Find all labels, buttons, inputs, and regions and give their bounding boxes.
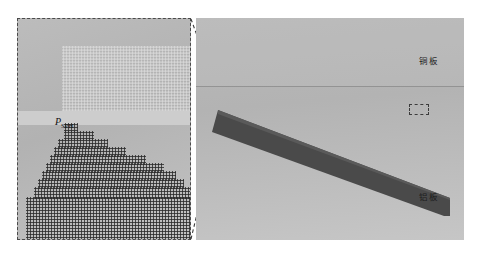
copper-plate-label: 铜板 <box>419 54 438 66</box>
collision-point-zoom-box <box>409 104 429 115</box>
aluminum-plate-shape <box>212 110 450 216</box>
particle-spacing-label: PSPH <box>55 116 73 129</box>
welding-scene-panel: aSPH 铜板 铝板 <box>196 18 464 240</box>
psph-subscript: SPH <box>61 122 73 129</box>
copper-plate-lower-surface <box>196 86 464 87</box>
sph-simulation-figure: PSPH aSPH 铜板 铝板 <box>0 0 480 257</box>
aluminum-plate-label: 铝板 <box>419 190 438 202</box>
aluminum-plate-top-highlight <box>218 110 450 200</box>
copper-plate-body <box>196 18 464 86</box>
